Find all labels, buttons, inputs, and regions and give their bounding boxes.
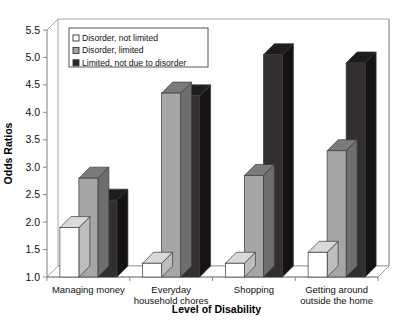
bar-side-face [346, 140, 357, 277]
bar-side-face [365, 52, 376, 277]
y-axis-tick-label: 5.0 [25, 51, 40, 63]
y-axis-tick-label: 3.0 [25, 161, 40, 173]
x-axis-title: Level of Disability [172, 303, 261, 315]
legend: Disorder, not limitedDisorder, limitedLi… [69, 28, 208, 68]
x-axis-category-label: Managing money [52, 284, 125, 295]
bar-front-face [60, 228, 79, 277]
y-axis-tick-label: 3.5 [25, 133, 40, 145]
bar-front-face [308, 252, 327, 277]
bar-side-face [181, 82, 192, 277]
bar-side-face [200, 85, 211, 277]
y-axis-title: Odds Ratios [2, 122, 14, 184]
x-axis-category-label: Shopping [234, 284, 274, 295]
legend-label: Disorder, limited [82, 45, 144, 55]
legend-label: Limited, not due to disorder [82, 58, 186, 68]
legend-item: Disorder, limited [73, 45, 144, 55]
bar [60, 217, 90, 277]
legend-swatch [73, 60, 79, 66]
x-axis: Managing moneyEverydayhousehold choresSh… [47, 277, 378, 306]
x-axis-category-label: Getting around [305, 284, 368, 295]
y-axis-tick-label: 2.5 [25, 188, 40, 200]
bar-front-face [162, 93, 181, 277]
bar [162, 82, 192, 277]
y-axis: 1.01.52.02.53.03.54.04.55.05.5 [25, 24, 47, 283]
bar-side-face [263, 164, 274, 277]
y-axis-tick-label: 4.5 [25, 78, 40, 90]
legend-swatch [73, 47, 79, 53]
y-axis-tick-label: 1.5 [25, 243, 40, 255]
x-axis-category-label: outside the home [300, 295, 373, 306]
left-wall-top-edge [47, 19, 58, 30]
legend-item: Limited, not due to disorder [73, 58, 186, 68]
y-axis-tick-label: 4.0 [25, 106, 40, 118]
odds-ratios-bar-chart: 1.01.52.02.53.03.54.04.55.05.5Odds Ratio… [0, 0, 396, 323]
legend-label: Disorder, not limited [82, 33, 158, 43]
bar-side-face [282, 44, 293, 277]
y-axis-tick-label: 1.0 [25, 271, 40, 283]
legend-swatch [73, 35, 79, 41]
y-axis-tick-label: 5.5 [25, 24, 40, 36]
y-axis-tick-label: 2.0 [25, 216, 40, 228]
legend-item: Disorder, not limited [73, 33, 158, 43]
chart-container: 1.01.52.02.53.03.54.04.55.05.5Odds Ratio… [0, 0, 396, 323]
bar-side-face [117, 189, 128, 277]
bar-front-face [143, 263, 162, 277]
bar-side-face [98, 167, 109, 277]
bar-front-face [225, 263, 244, 277]
x-axis-category-label: Everyday [151, 284, 191, 295]
